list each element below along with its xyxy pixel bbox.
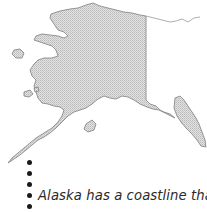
caption-line-1: Alaska has a coastline that is [38, 188, 207, 203]
alaska-landmass [8, 3, 206, 163]
bullet-dot [27, 171, 32, 176]
bullet-dot [27, 160, 32, 165]
bullet-dot [27, 204, 32, 209]
arctic-coast-line [146, 16, 200, 22]
bullet-dot [27, 193, 32, 198]
bullet-dot [27, 182, 32, 187]
alaska-map [0, 0, 207, 165]
